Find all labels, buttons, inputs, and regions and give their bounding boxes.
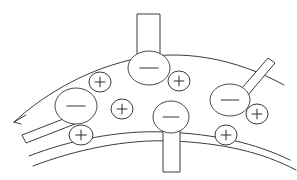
channel-top-center	[137, 14, 160, 56]
lower-boundary-curve	[29, 132, 290, 160]
diagram-canvas	[0, 0, 297, 180]
membrane-diagram	[0, 0, 297, 180]
negative-ions	[55, 51, 250, 133]
